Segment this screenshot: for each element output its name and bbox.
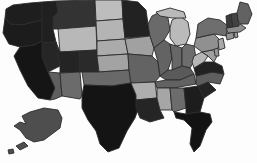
- state-al[interactable]: [170, 88, 186, 112]
- state-co[interactable]: [79, 50, 99, 73]
- state-ok[interactable]: [82, 70, 131, 86]
- state-wy[interactable]: [58, 26, 97, 52]
- ak-aleutian-2[interactable]: [8, 149, 14, 154]
- state-nm[interactable]: [60, 72, 82, 99]
- usa-choropleth-map: [0, 0, 257, 163]
- choropleth-map-container: [0, 0, 257, 163]
- state-mt[interactable]: [53, 0, 96, 29]
- state-ne[interactable]: [97, 39, 128, 56]
- state-nd[interactable]: [95, 0, 123, 21]
- state-ks[interactable]: [97, 54, 129, 72]
- state-ia[interactable]: [125, 36, 154, 56]
- state-sd[interactable]: [96, 19, 125, 41]
- state-in[interactable]: [170, 44, 182, 70]
- state-ms[interactable]: [157, 88, 172, 110]
